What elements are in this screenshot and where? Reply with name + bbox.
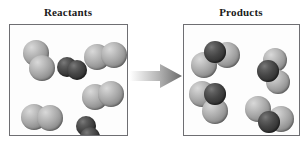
- reaction-diagram: Reactants Products: [0, 0, 308, 146]
- atom-light: [37, 105, 63, 131]
- atom-dark: [67, 60, 87, 80]
- products-box: [183, 24, 300, 136]
- atom-dark: [258, 111, 280, 133]
- products-title: Products: [182, 6, 300, 18]
- reactants-title: Reactants: [8, 6, 128, 18]
- atom-dark: [80, 127, 100, 136]
- atom-dark: [257, 60, 279, 82]
- reaction-arrow: [130, 62, 182, 90]
- atom-dark: [204, 41, 226, 63]
- atom-light: [98, 81, 124, 107]
- atom-light: [101, 42, 127, 68]
- reactants-box: [9, 24, 128, 136]
- atom-dark: [204, 83, 226, 105]
- atom-light: [29, 55, 55, 81]
